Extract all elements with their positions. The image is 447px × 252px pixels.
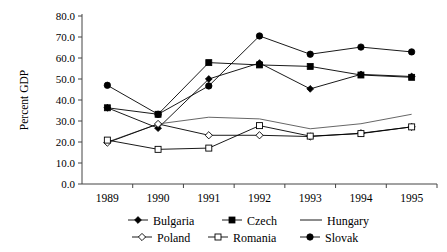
data-point-marker: [358, 44, 364, 50]
legend-item-slovak[interactable]: Slovak: [300, 231, 358, 245]
data-point-marker: [215, 234, 221, 240]
x-axis-tick-label: 1989: [96, 192, 119, 204]
data-point-marker: [135, 217, 142, 224]
series-bulgaria: [104, 60, 415, 132]
y-axis-tick-label: 70.0: [56, 31, 76, 43]
data-point-marker: [257, 123, 263, 129]
y-axis-tick-label: 30.0: [56, 115, 76, 127]
data-point-marker: [104, 82, 110, 88]
x-axis-tick-label: 1991: [197, 192, 220, 204]
legend-item-czech[interactable]: Czech: [222, 214, 277, 228]
y-axis-tick-label: 50.0: [56, 73, 76, 85]
legend-item-bulgaria[interactable]: Bulgaria: [128, 214, 195, 228]
data-point-marker: [155, 111, 161, 117]
data-point-marker: [257, 62, 263, 68]
y-axis-tick-label: 0.0: [61, 178, 75, 190]
legend-label: Poland: [157, 231, 190, 245]
y-axis-tick-label: 60.0: [56, 52, 76, 64]
data-point-marker: [256, 132, 263, 139]
data-point-marker: [307, 85, 314, 92]
data-point-marker: [206, 83, 212, 89]
legend-item-romania[interactable]: Romania: [208, 231, 277, 245]
x-axis-tick-label: 1994: [349, 192, 372, 204]
legend-label: Romania: [233, 231, 277, 245]
data-point-marker: [409, 124, 415, 130]
x-axis-tick-label: 1995: [400, 192, 423, 204]
legend-label: Bulgaria: [153, 214, 195, 228]
data-point-marker: [358, 131, 364, 137]
data-point-marker: [307, 133, 313, 139]
series-czech: [104, 60, 414, 118]
legend-item-hungary[interactable]: Hungary: [300, 214, 369, 228]
data-point-marker: [104, 105, 110, 111]
legend-label: Slovak: [325, 231, 358, 245]
series-line-czech: [107, 63, 411, 115]
data-point-marker: [229, 217, 235, 223]
data-point-marker: [409, 74, 415, 80]
legend-label: Hungary: [327, 214, 369, 228]
x-axis-tick-label: 1990: [147, 192, 170, 204]
data-point-marker: [104, 137, 110, 143]
legend-item-poland[interactable]: Poland: [132, 231, 190, 245]
series-line-bulgaria: [107, 63, 411, 128]
data-point-marker: [358, 72, 364, 78]
data-point-marker: [206, 145, 212, 151]
y-axis-title: Percent GDP: [18, 70, 30, 130]
y-axis-tick-label: 40.0: [56, 94, 76, 106]
x-axis-tick-label: 1992: [248, 192, 271, 204]
data-point-marker: [307, 234, 313, 240]
data-point-marker: [408, 49, 414, 55]
data-point-marker: [307, 63, 313, 69]
y-axis-tick-label: 10.0: [56, 157, 76, 169]
data-point-marker: [154, 120, 161, 127]
data-point-marker: [307, 51, 313, 57]
chart-figure: 0.010.020.030.040.050.060.070.080.019891…: [0, 0, 447, 252]
x-axis-tick-label: 1993: [299, 192, 322, 204]
legend-label: Czech: [247, 214, 277, 228]
line-chart-canvas: 0.010.020.030.040.050.060.070.080.019891…: [0, 0, 447, 252]
data-point-marker: [138, 233, 145, 240]
data-point-marker: [256, 33, 262, 39]
y-axis-tick-label: 80.0: [56, 10, 76, 22]
data-point-marker: [206, 60, 212, 66]
data-point-marker: [155, 146, 161, 152]
data-point-marker: [205, 132, 212, 139]
y-axis-tick-label: 20.0: [56, 136, 76, 148]
